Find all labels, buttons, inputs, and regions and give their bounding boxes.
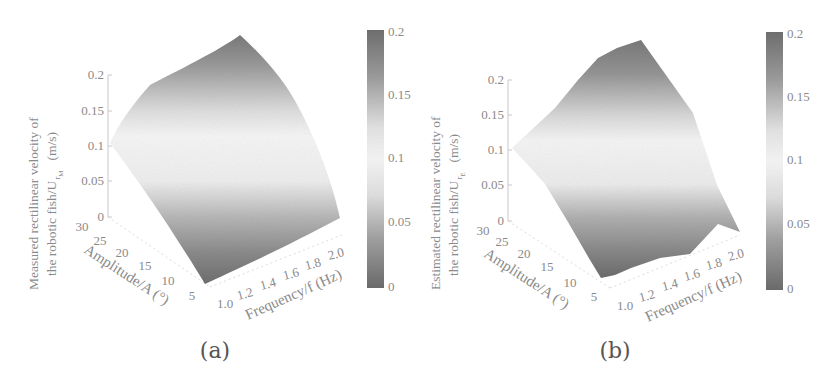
svg-text:0.05: 0.05 bbox=[481, 177, 504, 192]
svg-text:10: 10 bbox=[162, 273, 175, 288]
svg-text:2.0: 2.0 bbox=[326, 244, 346, 263]
svg-text:25: 25 bbox=[496, 234, 509, 249]
svg-text:0.05: 0.05 bbox=[81, 173, 104, 188]
svg-text:1.4: 1.4 bbox=[660, 275, 680, 294]
svg-text:0.1: 0.1 bbox=[88, 138, 104, 153]
svg-text:0: 0 bbox=[787, 281, 794, 296]
svg-text:0.2: 0.2 bbox=[787, 26, 803, 41]
caption-a: (a) bbox=[200, 338, 230, 363]
svg-text:1.8: 1.8 bbox=[303, 254, 323, 273]
svg-text:0.2: 0.2 bbox=[488, 72, 504, 87]
z-axis-label-a: Measured rectilinear velocity of the rob… bbox=[26, 117, 65, 290]
svg-text:1.4: 1.4 bbox=[258, 274, 278, 293]
svg-text:0.1: 0.1 bbox=[388, 150, 404, 165]
svg-text:0.1: 0.1 bbox=[787, 152, 803, 167]
colorbar-ticks-b: 0.2 0.15 0.1 0.05 0 bbox=[787, 26, 810, 296]
svg-text:1.2: 1.2 bbox=[637, 286, 657, 305]
z-label-line2: the robotic fish/UrM(m/s) bbox=[44, 132, 65, 276]
svg-text:1.6: 1.6 bbox=[281, 264, 301, 283]
svg-text:0.2: 0.2 bbox=[388, 24, 404, 39]
svg-text:10: 10 bbox=[564, 275, 577, 290]
z-label-line1: Measured rectilinear velocity of bbox=[26, 117, 41, 290]
svg-text:15: 15 bbox=[541, 259, 554, 274]
svg-text:1.8: 1.8 bbox=[704, 254, 724, 273]
svg-text:0.15: 0.15 bbox=[388, 87, 411, 102]
z-label-line1: Estimated rectilinear velocity of bbox=[428, 116, 443, 290]
figure: Measured rectilinear velocity of the rob… bbox=[0, 0, 834, 388]
svg-text:2.0: 2.0 bbox=[726, 245, 746, 264]
svg-text:0.05: 0.05 bbox=[388, 214, 411, 229]
svg-text:5: 5 bbox=[591, 289, 598, 304]
z-label-line2: the robotic fish/UrE(m/s) bbox=[446, 134, 467, 276]
colorbar-ticks-a: 0.2 0.15 0.1 0.05 0 bbox=[388, 24, 411, 294]
svg-text:1.6: 1.6 bbox=[682, 265, 702, 284]
surface-b bbox=[512, 40, 740, 278]
svg-text:20: 20 bbox=[518, 246, 531, 261]
svg-text:0: 0 bbox=[388, 279, 395, 294]
panel-b: Estimated rectilinear velocity of the ro… bbox=[428, 26, 810, 363]
svg-text:0.2: 0.2 bbox=[88, 67, 104, 82]
svg-text:0.05: 0.05 bbox=[787, 216, 810, 231]
svg-text:1.0: 1.0 bbox=[617, 298, 633, 313]
svg-text:0: 0 bbox=[98, 209, 105, 224]
colorbar-b bbox=[766, 32, 783, 290]
svg-text:0.15: 0.15 bbox=[787, 89, 810, 104]
svg-text:5: 5 bbox=[189, 288, 196, 303]
z-ticks-a: 0.2 0.15 0.1 0.05 0 bbox=[81, 67, 112, 224]
colorbar-a bbox=[367, 30, 384, 288]
panel-a: Measured rectilinear velocity of the rob… bbox=[26, 24, 411, 363]
surface-a bbox=[110, 35, 340, 284]
caption-b: (b) bbox=[599, 338, 630, 363]
svg-text:0: 0 bbox=[498, 213, 505, 228]
z-ticks-b: 0.2 0.15 0.1 0.05 0 bbox=[481, 72, 512, 228]
svg-text:1.0: 1.0 bbox=[217, 296, 233, 311]
svg-text:0.15: 0.15 bbox=[481, 107, 504, 122]
svg-text:0.15: 0.15 bbox=[81, 103, 104, 118]
svg-text:30: 30 bbox=[477, 223, 490, 238]
svg-text:0.1: 0.1 bbox=[488, 142, 504, 157]
z-axis-label-b: Estimated rectilinear velocity of the ro… bbox=[428, 116, 467, 290]
svg-text:30: 30 bbox=[76, 219, 89, 234]
svg-text:15: 15 bbox=[139, 258, 152, 273]
svg-text:1.2: 1.2 bbox=[235, 284, 255, 303]
